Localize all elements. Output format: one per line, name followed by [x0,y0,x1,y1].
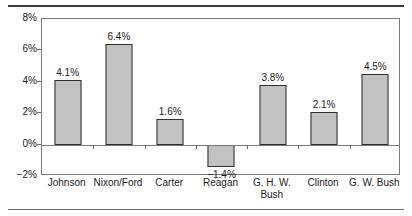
bar-value-label: 4.5% [364,61,387,72]
x-axis-category-label: G. W. Bush [349,177,400,189]
plot-area: 4.1%6.4%1.6%−1.4%3.8%2.1%4.5% [41,18,400,175]
bar[interactable] [208,145,235,167]
y-axis-tick: 0% [0,138,41,150]
x-axis-category-label: G. H. W. Bush [246,177,297,201]
top-horizontal-rule [8,5,404,7]
bar-group: 3.8% [247,19,298,174]
y-axis-tick-label: 8% [23,13,41,23]
bar-value-label: 2.1% [313,99,336,110]
bar-group: 4.5% [350,19,401,174]
bar-value-label: 6.4% [108,31,131,42]
y-axis-tick: 2% [0,106,41,118]
bottom-horizontal-rule [8,209,404,210]
bars-layer: 4.1%6.4%1.6%−1.4%3.8%2.1%4.5% [42,19,399,174]
y-axis: −2%0%2%4%6%8% [0,18,41,175]
zero-baseline [42,145,399,146]
y-axis-tick: −2% [0,169,41,181]
x-axis-category-label: Johnson [41,177,92,189]
y-axis-tick-label: −2% [17,170,41,180]
bar-chart-figure: −2%0%2%4%6%8% 4.1%6.4%1.6%−1.4%3.8%2.1%4… [0,0,412,216]
bar-value-label: 3.8% [261,72,284,83]
bar-group: 4.1% [42,19,93,174]
bar[interactable] [259,85,286,145]
bar[interactable] [362,74,389,145]
bar-group: 2.1% [298,19,349,174]
x-axis: JohnsonNixon/FordCarterReaganG. H. W. Bu… [41,177,400,209]
x-axis-category-label: Nixon/Ford [92,177,143,189]
bar[interactable] [105,44,132,144]
bar-group: 1.6% [145,19,196,174]
y-axis-tick: 8% [0,12,41,24]
y-axis-tick: 4% [0,75,41,87]
x-axis-category-label: Carter [144,177,195,189]
bar-group: −1.4% [196,19,247,174]
bar-value-label: 1.6% [159,106,182,117]
bar-group: 6.4% [93,19,144,174]
bar-value-label: 4.1% [56,67,79,78]
bar[interactable] [54,80,81,144]
bar[interactable] [311,112,338,145]
y-axis-tick: 6% [0,43,41,55]
x-axis-category-label: Reagan [195,177,246,189]
x-axis-category-label: Clinton [297,177,348,189]
bar[interactable] [157,119,184,144]
